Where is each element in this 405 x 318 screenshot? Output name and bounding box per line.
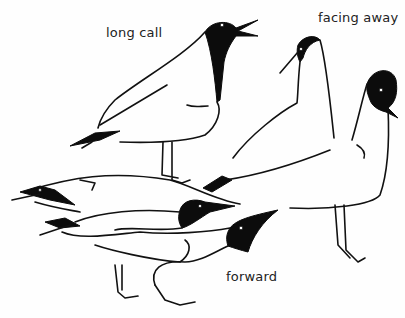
label-facing-away: facing away xyxy=(318,10,398,25)
gull-drawing xyxy=(0,0,405,318)
gull-forward-front xyxy=(62,210,278,305)
gull-forward-center xyxy=(40,200,235,235)
label-forward: forward xyxy=(226,269,277,284)
gull-long-call xyxy=(70,20,258,183)
label-long-call: long call xyxy=(106,25,162,40)
gull-postures-illustration: long call facing away forward xyxy=(0,0,405,318)
gull-facing-away xyxy=(233,37,334,158)
